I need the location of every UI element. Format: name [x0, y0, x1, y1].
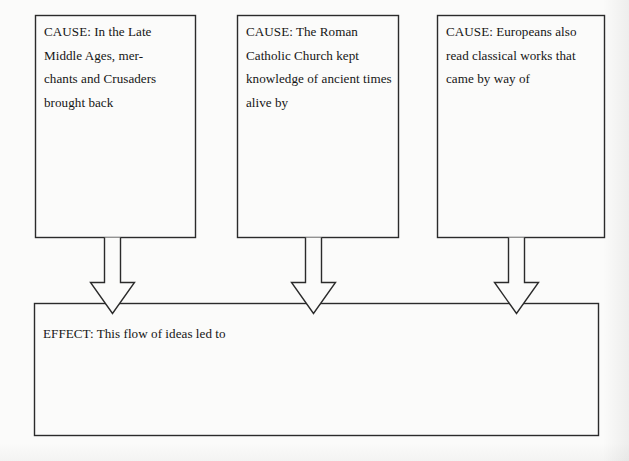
worksheet-page: CAUSE: In the Late Middle Ages, mer- cha…: [0, 0, 629, 461]
cause-box-1-text: CAUSE: In the Late Middle Ages, mer- cha…: [44, 20, 190, 114]
cause-box-3-text: CAUSE: Europeans also read classical wor…: [446, 20, 599, 91]
effect-box-text: EFFECT: This flow of ideas led to: [43, 322, 591, 346]
cause-box-2[interactable]: CAUSE: The Roman Catholic Church kept kn…: [237, 15, 399, 238]
cause-box-2-text: CAUSE: The Roman Catholic Church kept kn…: [246, 20, 393, 114]
cause-box-1[interactable]: CAUSE: In the Late Middle Ages, mer- cha…: [35, 15, 196, 238]
effect-box[interactable]: EFFECT: This flow of ideas led to: [34, 303, 599, 436]
cause-box-3[interactable]: CAUSE: Europeans also read classical wor…: [437, 15, 605, 238]
